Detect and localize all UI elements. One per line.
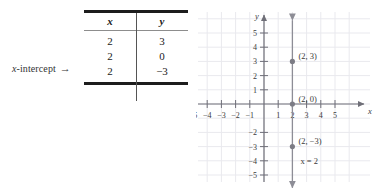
x-tick-label: −3 — [217, 111, 226, 120]
value-table: x y 2 3 2 0 2 −3 — [84, 10, 188, 85]
y-tick-label: 3 — [253, 57, 257, 66]
column-header-x: x — [84, 13, 136, 30]
y-tick-label: 5 — [253, 29, 257, 38]
data-points: (2, 3)(2, 0)(2, −3) — [290, 51, 322, 149]
y-tick-label: 4 — [253, 43, 257, 52]
data-point — [290, 144, 295, 149]
axes — [198, 15, 364, 182]
cell-y: 0 — [136, 49, 188, 64]
y-tick-label: 1 — [253, 86, 257, 95]
coordinate-plane: xy−5−4−3−2−11234554321−2−3−4−5x = 2(2, 3… — [196, 6, 376, 188]
cell-x: 2 — [84, 64, 136, 79]
x-tick-label: −5 — [196, 111, 197, 120]
data-point — [290, 101, 295, 106]
column-header-y: y — [136, 13, 188, 30]
cell-y: −3 — [136, 64, 188, 79]
line-equation-label: x = 2 — [300, 156, 318, 166]
x-intercept-label-rest: -intercept — [17, 63, 56, 74]
x-tick-label: −1 — [246, 111, 255, 120]
cell-x: 2 — [84, 49, 136, 64]
y-tick-label: −2 — [248, 128, 257, 137]
right-arrow-icon: → — [60, 62, 71, 74]
y-axis-label: y — [254, 11, 259, 21]
point-label: (2, 3) — [298, 51, 317, 61]
cell-x: 2 — [84, 34, 136, 49]
point-label: (2, −3) — [298, 136, 321, 146]
graph-svg: xy−5−4−3−2−11234554321−2−3−4−5x = 2(2, 3… — [196, 6, 376, 188]
x-axis-label: x — [367, 106, 372, 116]
data-point — [290, 59, 295, 64]
point-label: (2, 0) — [298, 94, 317, 104]
table-column-divider — [136, 13, 137, 101]
x-tick-label: −4 — [203, 111, 212, 120]
y-tick-label: −5 — [248, 171, 257, 180]
x-intercept-annotation: x-intercept→ — [12, 62, 71, 74]
cell-y: 3 — [136, 34, 188, 49]
y-tick-label: −3 — [248, 143, 257, 152]
x-tick-label: 1 — [276, 111, 280, 120]
x-tick-label: 5 — [333, 111, 337, 120]
x-tick-label: 4 — [319, 111, 323, 120]
x-tick-label: −2 — [231, 111, 240, 120]
y-tick-label: 2 — [253, 72, 257, 81]
y-tick-label: −4 — [248, 157, 257, 166]
grid-lines — [198, 12, 370, 182]
x-tick-label: 3 — [305, 111, 309, 120]
